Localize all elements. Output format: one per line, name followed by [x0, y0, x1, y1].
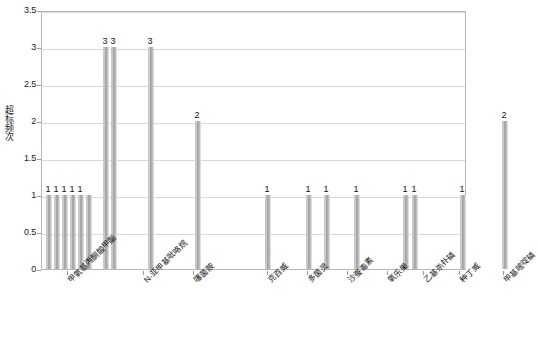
bar-value-label: 1: [71, 184, 89, 194]
y-axis-tick-label: 3.5: [14, 5, 36, 15]
bar: [54, 195, 60, 269]
bar-value-label: 1: [453, 184, 471, 194]
bar-value-label: 1: [317, 184, 335, 194]
bar: [502, 121, 508, 269]
bar: [46, 195, 52, 269]
bar-value-label: 1: [347, 184, 365, 194]
bar: [354, 195, 360, 269]
y-axis-tick-label: 2: [14, 116, 36, 126]
bar-value-label: 1: [299, 184, 317, 194]
bar-value-label: 3: [141, 36, 159, 46]
y-axis-title: 超标频次: [4, 105, 14, 141]
bar-value-label: 3: [104, 36, 122, 46]
bar-value-label: 1: [258, 184, 276, 194]
bar: [324, 195, 330, 269]
y-axis-tick: [37, 270, 41, 271]
bar-value-label: 2: [495, 110, 513, 120]
y-axis-tick: [37, 48, 41, 49]
bar: [195, 121, 201, 269]
y-axis-tick-label: 1: [14, 190, 36, 200]
bar-value-label: 1: [405, 184, 423, 194]
gridline: [42, 12, 465, 13]
y-axis-tick-label: 3: [14, 42, 36, 52]
bar: [148, 47, 154, 269]
y-axis-tick: [37, 11, 41, 12]
y-axis-tick: [37, 233, 41, 234]
bar: [306, 195, 312, 269]
y-axis-tick-label: 2.5: [14, 79, 36, 89]
y-axis-tick-label: 0: [14, 264, 36, 274]
bar: [412, 195, 418, 269]
bar: [460, 195, 466, 269]
bar: [62, 195, 68, 269]
y-axis-tick: [37, 159, 41, 160]
bar: [265, 195, 271, 269]
y-axis-tick-label: 0.5: [14, 227, 36, 237]
bar: [403, 195, 409, 269]
y-axis-tick: [37, 85, 41, 86]
y-axis-tick: [37, 122, 41, 123]
bar-value-label: 2: [188, 110, 206, 120]
plot-area: [41, 11, 466, 270]
bar: [70, 195, 76, 269]
y-axis-tick: [37, 196, 41, 197]
y-axis-tick-label: 1.5: [14, 153, 36, 163]
